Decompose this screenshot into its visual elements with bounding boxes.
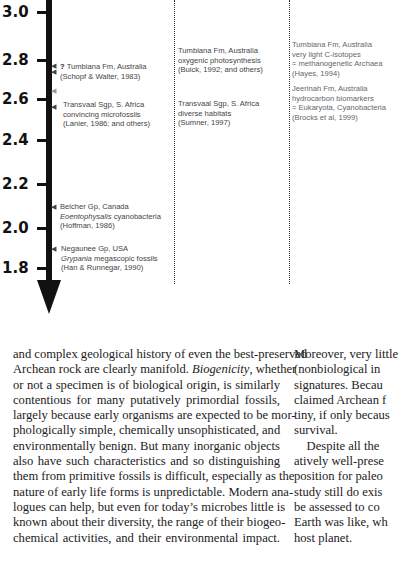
- note-tumbiana-isotopes: Tumbiana Fm, Australia very light C-isot…: [292, 40, 383, 78]
- note-line: diverse habitats: [178, 109, 259, 119]
- note-line: hydrocarbon biomarkers: [292, 94, 386, 104]
- note-line: cyanobacteria: [112, 212, 161, 221]
- taxon-name: Eoentophysalis: [60, 212, 112, 221]
- note-citation: (Buick, 1992; and others): [178, 65, 263, 75]
- text-line: signatures. Becau: [294, 378, 403, 393]
- note-line: Negaunee Gp, USA: [61, 244, 158, 254]
- axis-tick: [37, 11, 47, 14]
- text-line: also have such characteristics and so di…: [13, 454, 280, 469]
- note-transvaal-habitats: Transvaal Sgp, S. Africa diverse habitat…: [178, 99, 259, 128]
- taxon-name: Grypania: [61, 254, 92, 263]
- emphasized-term: Biogenicity: [192, 362, 249, 376]
- note-tumbiana-microfossils: ? Tumbiana Fm, Australia (Schopf & Walte…: [60, 62, 147, 81]
- text-line: position for paleo: [294, 469, 403, 484]
- arrow-left-icon: ◀: [51, 104, 56, 111]
- note-line: Tumbiana Fm, Australia: [67, 62, 147, 71]
- text-line: nature of early life forms is unpredicta…: [13, 485, 280, 500]
- note-citation: (Lanier, 1986; and others): [63, 119, 150, 129]
- text-line: (nonbiological in: [294, 362, 403, 377]
- text-line: Moreover, very little: [294, 347, 403, 362]
- note-tumbiana-photosynthesis: Tumbiana Fm, Australia oxygenic photosyn…: [178, 46, 263, 75]
- axis-tick-label: 2.2: [2, 176, 36, 192]
- text-line: atively well-prese: [294, 454, 403, 469]
- time-axis-arrowhead-icon: [37, 280, 61, 314]
- time-axis-line: [46, 0, 52, 286]
- axis-tick: [37, 59, 47, 62]
- axis-tick-label: 2.4: [2, 132, 36, 148]
- text-line: logues can help, but even for today’s mi…: [13, 500, 280, 515]
- text-line: Despite all the: [294, 439, 403, 454]
- note-line: = Eukaryota, Cyanobacteria: [292, 103, 386, 113]
- note-line: Tumbiana Fm, Australia: [292, 40, 383, 50]
- note-negaunee: Negaunee Gp, USA Grypania megascopic fos…: [61, 244, 158, 273]
- text-line: and complex geological history of even t…: [13, 347, 280, 362]
- text-line: chemical activities, and their environme…: [13, 531, 280, 546]
- note-line: Jeerinah Fm, Australia: [292, 84, 386, 94]
- axis-tick-label: 2.0: [2, 220, 36, 236]
- body-text-right-column: Moreover, very little (nonbiological in …: [294, 347, 403, 546]
- note-line: Tumbiana Fm, Australia: [178, 46, 263, 56]
- column-divider: [289, 0, 290, 284]
- text-line: study still do exis: [294, 485, 403, 500]
- axis-tick: [37, 139, 47, 142]
- text-span: , whether: [249, 362, 296, 376]
- text-line: survival.: [294, 423, 403, 438]
- text-line: be assessed to co: [294, 500, 403, 515]
- note-citation: (Schopf & Walter, 1983): [60, 72, 147, 82]
- note-line: convincing microfossils: [63, 110, 150, 120]
- text-span: Archean rock are clearly manifold.: [13, 362, 192, 376]
- question-mark: ?: [60, 62, 65, 71]
- text-line: largely because early organisms are expe…: [13, 408, 280, 423]
- text-line: host planet.: [294, 531, 403, 546]
- note-citation: (Sumner, 1997): [178, 118, 259, 128]
- text-line: them from primitive fossils is difficult…: [13, 469, 280, 484]
- note-citation: (Hoffman, 1986): [60, 221, 161, 231]
- body-text-left-column: and complex geological history of even t…: [13, 347, 280, 546]
- axis-tick-label: 1.8: [2, 260, 36, 276]
- note-line: megascopic fossils: [92, 254, 158, 263]
- arrow-left-icon: ◀: [51, 204, 56, 211]
- text-line: contentious for many putatively primordi…: [13, 393, 280, 408]
- axis-tick: [37, 183, 47, 186]
- note-line: oxygenic photosynthesis: [178, 56, 263, 66]
- arrow-left-icon: ◀: [51, 88, 56, 95]
- text-line: Earth was like, wh: [294, 515, 403, 530]
- note-citation: (Han & Runnegar, 1990): [61, 263, 158, 273]
- axis-tick-label: 3.0: [2, 4, 36, 20]
- axis-tick-label: 2.8: [2, 52, 36, 68]
- note-line: Belcher Gp, Canada: [60, 202, 161, 212]
- note-line: Transvaal Sgp, S. Africa: [178, 99, 259, 109]
- text-line: phologically simple, chemically unsophis…: [13, 423, 280, 438]
- note-transvaal-microfossils: Transvaal Sgp, S. Africa convincing micr…: [63, 100, 150, 129]
- text-line: Archean rock are clearly manifold. Bioge…: [13, 362, 280, 377]
- axis-tick-label: 2.6: [2, 91, 36, 107]
- note-citation: (Hayes, 1994): [292, 69, 383, 79]
- axis-tick: [37, 98, 47, 101]
- note-line: Transvaal Sgp, S. Africa: [63, 100, 150, 110]
- column-divider: [174, 0, 175, 284]
- timeline-figure: 3.0 2.8 2.6 2.4 2.2 2.0 1.8 ◀ ◀ ◀ ◀ ◀ ◀ …: [0, 0, 381, 320]
- arrow-left-icon: ◀: [51, 69, 56, 76]
- note-belcher: Belcher Gp, Canada Eoentophysalis cyanob…: [60, 202, 161, 231]
- text-line: environmentally benign. But many inorgan…: [13, 439, 280, 454]
- note-line: = methanogenetic Archaea: [292, 59, 383, 69]
- note-citation: (Brocks et al, 1999): [292, 113, 386, 123]
- note-jeerinah-biomarkers: Jeerinah Fm, Australia hydrocarbon bioma…: [292, 84, 386, 122]
- text-line: claimed Archean f: [294, 393, 403, 408]
- arrow-left-icon: ◀: [51, 246, 56, 253]
- note-line: very light C-isotopes: [292, 50, 383, 60]
- text-line: or not a specimen is of biological origi…: [13, 378, 280, 393]
- text-line: known about their diversity, the range o…: [13, 515, 280, 530]
- axis-tick: [37, 227, 47, 230]
- text-line: tiny, if only becaus: [294, 408, 403, 423]
- axis-tick: [37, 267, 47, 270]
